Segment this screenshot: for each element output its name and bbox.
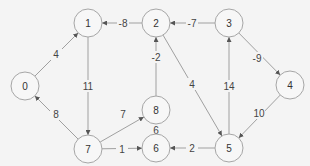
node-4: 4 bbox=[276, 71, 304, 99]
node-label: 6 bbox=[153, 143, 159, 154]
node-label: 2 bbox=[153, 18, 159, 29]
edge-3-to-2: -7 bbox=[170, 17, 215, 29]
edge-5-to-6: 2 bbox=[170, 142, 215, 154]
edge-7-to-6: 1 bbox=[102, 143, 142, 155]
edge-2-to-1: -8 bbox=[102, 17, 142, 29]
node-label: 0 bbox=[22, 81, 28, 92]
edge-weight-label: -2 bbox=[152, 52, 161, 63]
edge-weight-label: -7 bbox=[188, 18, 197, 29]
node-6: 6 bbox=[142, 134, 170, 162]
node-label: 7 bbox=[85, 144, 91, 155]
node-label: 8 bbox=[153, 105, 159, 116]
node-2: 2 bbox=[142, 9, 170, 37]
edge-weight-label: 7 bbox=[120, 109, 126, 120]
graph-canvas: 4-8-7-911871-26414102 012345678 bbox=[0, 0, 310, 166]
node-label: 1 bbox=[85, 18, 91, 29]
node-label: 3 bbox=[226, 18, 232, 29]
edge-8-to-2: -2 bbox=[150, 37, 162, 96]
edge-weight-label: 4 bbox=[53, 49, 59, 60]
edge-weight-label: 4 bbox=[189, 79, 195, 90]
edge-weight-label: -9 bbox=[253, 53, 262, 64]
node-0: 0 bbox=[11, 72, 39, 100]
node-8: 8 bbox=[142, 96, 170, 124]
node-3: 3 bbox=[215, 9, 243, 37]
node-5: 5 bbox=[215, 134, 243, 162]
edge-0-to-1: 4 bbox=[35, 33, 78, 76]
edge-2-to-5: 4 bbox=[163, 35, 222, 136]
edge-weight-label: -8 bbox=[119, 18, 128, 29]
nodes-layer: 012345678 bbox=[11, 9, 304, 163]
edge-weight-label: 14 bbox=[223, 81, 235, 92]
edge-weight-label: 10 bbox=[253, 108, 265, 119]
edge-weight-label: 2 bbox=[189, 143, 195, 154]
edge-7-to-8: 7 bbox=[100, 108, 144, 142]
edge-weight-label: 8 bbox=[53, 109, 59, 120]
edge-weight-label: 11 bbox=[83, 81, 94, 92]
node-7: 7 bbox=[74, 135, 102, 163]
node-1: 1 bbox=[74, 9, 102, 37]
edge-5-to-3: 14 bbox=[223, 37, 235, 134]
edge-line bbox=[100, 117, 144, 142]
node-label: 5 bbox=[226, 143, 232, 154]
edge-4-to-5: 10 bbox=[239, 95, 281, 138]
edge-weight-label: 1 bbox=[119, 144, 125, 155]
edge-1-to-7: 11 bbox=[82, 37, 94, 135]
node-label: 4 bbox=[287, 80, 293, 91]
edge-3-to-4: -9 bbox=[239, 33, 280, 75]
edge-7-to-0: 8 bbox=[35, 96, 78, 139]
